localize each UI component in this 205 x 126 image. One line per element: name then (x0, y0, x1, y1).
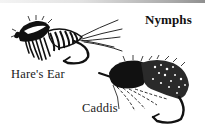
section-title: Nymphs (145, 12, 192, 28)
caddis-label: Caddis (82, 101, 118, 116)
hares-ear-label: Hare's Ear (11, 67, 65, 82)
top-divider (0, 0, 205, 3)
